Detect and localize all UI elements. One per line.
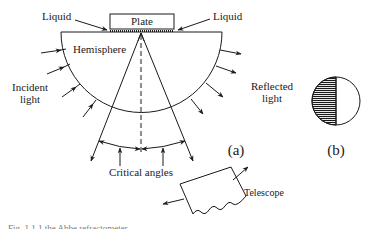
critical-angles-label: Critical angles [109, 166, 173, 178]
critical-angle-arc-left [99, 141, 140, 149]
incident-light-label-line2: light [20, 93, 40, 105]
reflected-light-arrows [191, 50, 241, 114]
liquid-right-label: Liquid [213, 10, 243, 22]
liquid-left-leader [75, 20, 107, 30]
refractometer-diagram: Plate Liquid Liquid Hemisphere Incident … [0, 0, 371, 229]
telescope [163, 167, 248, 214]
plate-label: Plate [131, 15, 153, 27]
panel-b-label: (b) [327, 142, 345, 159]
panel-a-label: (a) [228, 142, 245, 159]
figure-caption: Fig. 1.1.1 the Abbe refractometer [8, 223, 128, 229]
reflected-light-label-line1: Reflected [251, 80, 294, 92]
critical-angle-arc-right [142, 141, 185, 149]
critical-ray-right [141, 33, 193, 161]
reflected-light-label-line2: light [262, 92, 282, 104]
telescope-label: Telescope [244, 187, 284, 198]
liquid-left-label: Liquid [42, 10, 72, 22]
incident-light-arrows [41, 49, 96, 117]
incident-light-label-line1: Incident [12, 81, 48, 93]
panel-a: Plate Liquid Liquid Hemisphere Incident … [12, 10, 294, 214]
hemisphere-label: Hemisphere [73, 43, 126, 55]
panel-b: (b) [312, 77, 360, 159]
liquid-right-leader [178, 19, 210, 30]
field-of-view-dark-half [312, 77, 336, 125]
